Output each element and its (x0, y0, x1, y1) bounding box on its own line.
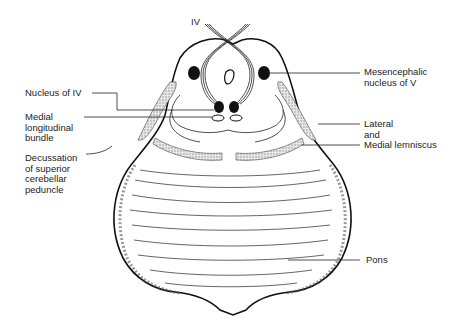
label-iv: IV (191, 17, 200, 28)
mesencephalic-nucleus-right (258, 66, 270, 80)
mlf-right (230, 115, 242, 121)
mlf-left (212, 115, 224, 121)
label-pons: Pons (366, 255, 388, 266)
leader-decussation (86, 146, 112, 154)
label-mesencephalic: Mesencephalic nucleus of V (364, 67, 427, 88)
nucleus-iv-left (214, 101, 224, 113)
mesencephalic-nucleus-left (188, 66, 200, 80)
label-mlf: Medial longitudinal bundle (25, 112, 73, 144)
label-nucleus-iv: Nucleus of IV (25, 88, 82, 99)
label-lemniscus: Lateral and Medial lemniscus (364, 119, 437, 151)
nucleus-iv-right (229, 101, 239, 113)
label-decussation: Decussation of superior cerebellar pedun… (25, 153, 77, 195)
